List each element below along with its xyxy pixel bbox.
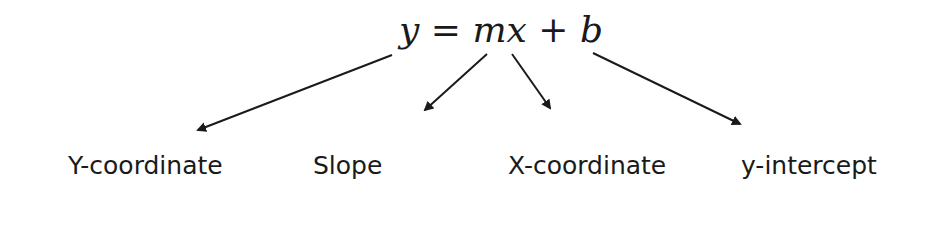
arrow-to-slope: [425, 54, 487, 110]
arrow-to-y-coordinate: [198, 55, 392, 130]
label-y-coordinate: Y-coordinate: [68, 150, 223, 182]
arrow-to-y-intercept: [593, 53, 740, 124]
label-y-intercept: y-intercept: [741, 150, 877, 182]
label-x-coordinate: X-coordinate: [508, 150, 666, 182]
arrow-to-x-coordinate: [512, 54, 550, 108]
label-slope: Slope: [313, 150, 382, 182]
